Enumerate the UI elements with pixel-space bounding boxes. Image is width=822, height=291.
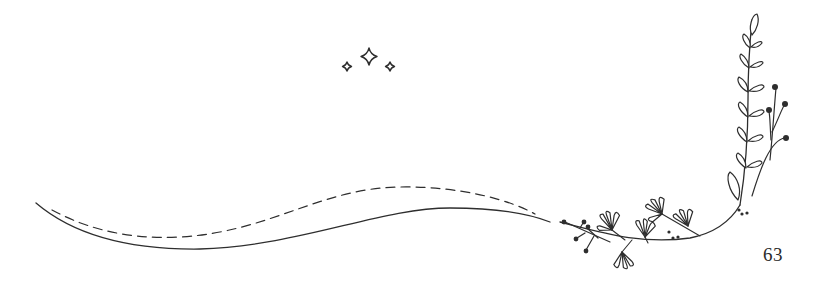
solid-curve: [36, 203, 550, 249]
blossom-sprigs: [593, 193, 698, 273]
sparkle-large-icon: [361, 48, 377, 65]
page-number: 63: [763, 244, 783, 266]
floral-ornament: [0, 0, 822, 291]
berries-left: [562, 220, 591, 254]
berries-right: [766, 84, 789, 141]
dashed-curve: [52, 187, 535, 237]
berry-stems-right: [752, 88, 785, 196]
sparkles-icon: [343, 48, 395, 71]
leafy-branch: [728, 14, 764, 200]
document-page: 63: [0, 0, 822, 291]
swoosh-lines: [36, 187, 550, 249]
sparkle-small-left-icon: [343, 62, 352, 71]
sparkle-small-right-icon: [386, 62, 395, 71]
